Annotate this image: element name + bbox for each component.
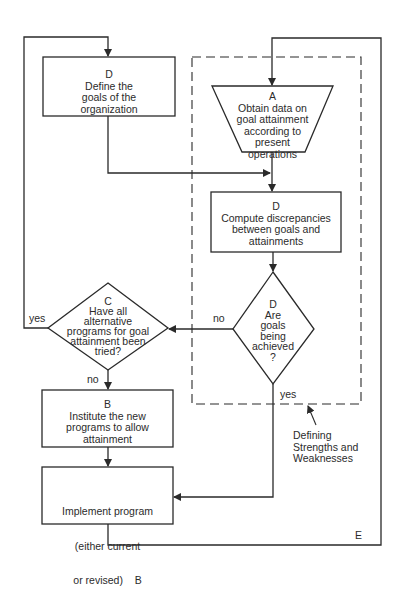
- achieved-yes-label: yes: [280, 389, 296, 401]
- compute-discrepancies-label: D Compute discrepancies between goals an…: [211, 201, 341, 247]
- tried-yes-label: yes: [29, 313, 45, 325]
- alternatives-tried-label: C Have all alternative programs for goal…: [53, 296, 163, 356]
- tried-no-label: no: [87, 374, 99, 386]
- outer-loop-label: E: [355, 530, 362, 542]
- edge-achieved-yes: [174, 384, 273, 497]
- strengths-weaknesses-annotation: Defining Strengths and Weaknesses: [293, 430, 358, 465]
- goals-achieved-label: D Are goals being achieved ?: [233, 299, 313, 362]
- define-goals-label: D Define the goals of the organization: [43, 69, 175, 115]
- obtain-data-label: A Obtain data on goal attainment accordi…: [212, 91, 333, 160]
- annotation-pointer: [308, 406, 316, 425]
- institute-programs-label: B Institute the new programs to allow at…: [42, 399, 173, 445]
- implement-program-label: Implement program (either current or rev…: [42, 483, 173, 590]
- achieved-no-label: no: [213, 313, 225, 325]
